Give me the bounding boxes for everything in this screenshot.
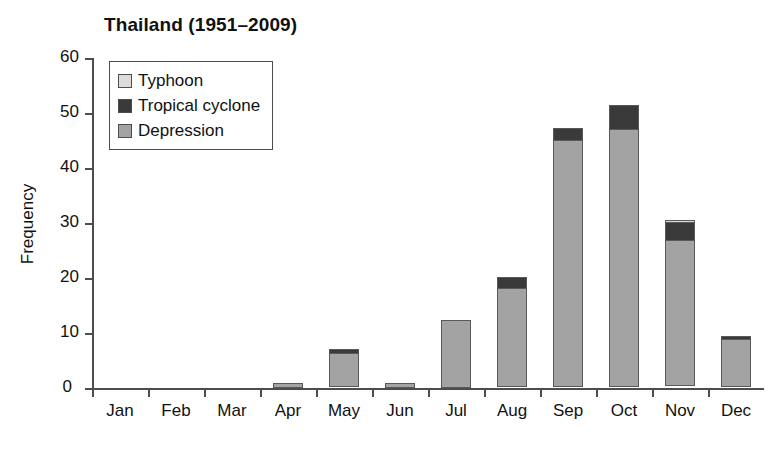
- x-tick-nov: [652, 389, 654, 397]
- x-axis-label-may: May: [328, 401, 360, 421]
- legend-item-typhoon[interactable]: Typhoon: [118, 68, 260, 93]
- y-tick-20: 20: [85, 278, 92, 280]
- x-axis-label-dec: Dec: [721, 401, 751, 421]
- y-tick-label-50: 50: [60, 102, 79, 122]
- bar-may[interactable]: [329, 349, 359, 388]
- x-tick-dec: [708, 389, 710, 397]
- x-tick-feb: [148, 389, 150, 397]
- bar-segment-jun-depression: [385, 383, 415, 389]
- legend-swatch-icon: [118, 99, 132, 113]
- x-tick-may: [316, 389, 318, 397]
- y-tick-50: 50: [85, 113, 92, 115]
- legend-swatch-icon: [118, 124, 132, 138]
- y-tick-60: 60: [85, 58, 92, 60]
- bar-segment-aug-depression: [497, 288, 527, 387]
- bar-segment-apr-depression: [273, 383, 303, 389]
- chart-figure: Thailand (1951–2009) Frequency 010203040…: [0, 0, 772, 451]
- bar-segment-oct-tropical-cyclone: [609, 105, 639, 130]
- bar-jul[interactable]: [441, 320, 471, 388]
- bar-segment-nov-tropical-cyclone: [665, 222, 695, 241]
- y-tick-label-60: 60: [60, 47, 79, 67]
- y-tick-label-20: 20: [60, 267, 79, 287]
- bar-segment-may-depression: [329, 353, 359, 387]
- y-axis-label: Frequency: [18, 144, 38, 304]
- x-axis-label-feb: Feb: [161, 401, 190, 421]
- bar-nov[interactable]: [665, 220, 695, 388]
- bar-sep[interactable]: [553, 128, 583, 388]
- bar-jun[interactable]: [385, 383, 415, 389]
- legend-label: Typhoon: [138, 71, 203, 91]
- y-tick-label-40: 40: [60, 157, 79, 177]
- bar-dec[interactable]: [721, 336, 751, 388]
- bar-segment-oct-depression: [609, 129, 639, 388]
- x-tick-jun: [372, 389, 374, 397]
- x-tick-aug: [484, 389, 486, 397]
- x-axis-label-oct: Oct: [611, 401, 637, 421]
- bar-aug[interactable]: [497, 277, 527, 388]
- x-axis-label-sep: Sep: [553, 401, 583, 421]
- y-tick-40: 40: [85, 168, 92, 170]
- legend-item-depression[interactable]: Depression: [118, 118, 260, 143]
- x-axis-label-jul: Jul: [445, 401, 467, 421]
- legend-label: Depression: [138, 121, 224, 141]
- x-tick-oct: [596, 389, 598, 397]
- chart-title: Thailand (1951–2009): [104, 14, 297, 36]
- y-tick-10: 10: [85, 333, 92, 335]
- x-axis-label-nov: Nov: [665, 401, 695, 421]
- chart-legend: TyphoonTropical cycloneDepression: [109, 61, 273, 150]
- y-tick-30: 30: [85, 223, 92, 225]
- y-tick-label-0: 0: [63, 377, 72, 397]
- x-axis-label-aug: Aug: [497, 401, 527, 421]
- legend-item-tropical-cyclone[interactable]: Tropical cyclone: [118, 93, 260, 118]
- x-tick-sep: [540, 389, 542, 397]
- x-tick-jan: [92, 389, 94, 397]
- bar-segment-dec-depression: [721, 339, 751, 387]
- x-axis-label-apr: Apr: [275, 401, 301, 421]
- y-axis-label-wrap: Frequency: [0, 150, 34, 310]
- bar-apr[interactable]: [273, 383, 303, 389]
- y-tick-label-30: 30: [60, 212, 79, 232]
- x-tick-mar: [204, 389, 206, 397]
- bar-oct[interactable]: [609, 105, 639, 388]
- bar-segment-jul-depression: [441, 320, 471, 388]
- x-axis-label-jan: Jan: [106, 401, 133, 421]
- y-axis-line: [92, 58, 94, 389]
- x-axis-label-mar: Mar: [217, 401, 246, 421]
- x-axis-label-jun: Jun: [386, 401, 413, 421]
- legend-label: Tropical cyclone: [138, 96, 260, 116]
- bar-segment-nov-depression: [665, 240, 695, 386]
- bar-segment-sep-depression: [553, 140, 583, 388]
- y-tick-label-10: 10: [60, 322, 79, 342]
- legend-swatch-icon: [118, 74, 132, 88]
- x-tick-jul: [428, 389, 430, 397]
- x-tick-apr: [260, 389, 262, 397]
